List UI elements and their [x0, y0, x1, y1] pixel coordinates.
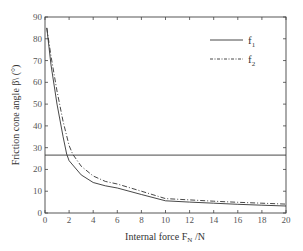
legend-label-f2: f2 — [248, 53, 256, 68]
y-tick-label: 70 — [33, 56, 43, 66]
y-tick-label: 20 — [33, 164, 43, 174]
y-tick-label: 30 — [33, 143, 43, 153]
plot-area-border — [45, 17, 286, 213]
legend-label-f1: f1 — [248, 34, 256, 49]
y-tick-label: 90 — [33, 12, 43, 22]
x-axis-label: Internal force FN /N — [125, 231, 205, 244]
x-tick-label: 0 — [43, 215, 48, 225]
y-tick-label: 40 — [33, 121, 43, 131]
x-tick-label: 4 — [91, 215, 96, 225]
y-tick-label: 80 — [33, 34, 43, 44]
x-tick-label: 16 — [233, 215, 243, 225]
x-tick-label: 2 — [67, 215, 72, 225]
y-tick-label: 10 — [33, 186, 43, 196]
x-tick-label: 6 — [115, 215, 120, 225]
x-tick-label: 14 — [209, 215, 219, 225]
plot-frame — [45, 17, 286, 213]
legend: f1f2 — [210, 34, 256, 68]
x-tick-label: 12 — [185, 215, 194, 225]
x-tick-label: 8 — [139, 215, 144, 225]
y-tick-label: 50 — [33, 99, 43, 109]
friction-cone-chart: 024681012141618200102030405060708090 f1f… — [0, 0, 303, 251]
x-tick-label: 10 — [161, 215, 171, 225]
y-tick-label: 0 — [38, 208, 43, 218]
y-axis-label: Friction cone angle β\ (°) — [10, 65, 22, 166]
y-tick-label: 60 — [33, 77, 43, 87]
x-tick-label: 20 — [282, 215, 292, 225]
x-tick-label: 18 — [257, 215, 267, 225]
